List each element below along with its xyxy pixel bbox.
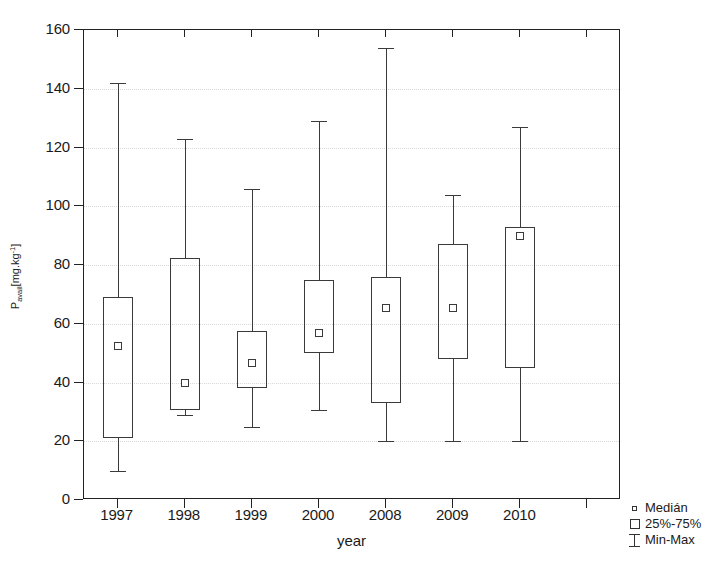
median-symbol-icon xyxy=(627,500,642,516)
legend-item-median: Medián xyxy=(627,500,722,516)
minmax-symbol-icon xyxy=(627,532,642,548)
y-axis-tick-label: 80 xyxy=(4,255,70,272)
median-marker xyxy=(516,232,524,240)
y-axis-tick-label: 160 xyxy=(4,20,70,37)
whisker-upper xyxy=(386,48,387,277)
x-axis-tick-top xyxy=(184,29,185,37)
y-axis-tick-label: 60 xyxy=(4,314,70,331)
y-axis-tick-label: 140 xyxy=(4,79,70,96)
x-axis-title: year xyxy=(83,532,620,549)
y-axis-tick xyxy=(74,264,83,265)
cap-min xyxy=(177,415,193,416)
quartile-box xyxy=(371,277,401,403)
x-axis-tick xyxy=(586,499,587,508)
y-axis-tick-label: 100 xyxy=(4,196,70,213)
whisker-lower xyxy=(520,368,521,441)
x-axis-tick-label: 2008 xyxy=(349,506,421,523)
quartile-box xyxy=(438,244,468,359)
cap-max xyxy=(378,48,394,49)
median-marker xyxy=(449,304,457,312)
y-axis-tick xyxy=(74,382,83,383)
x-axis-tick-top xyxy=(385,29,386,37)
box-plot-chart: Pavail[mg.kg-1] 020406080100120140160 19… xyxy=(0,0,722,562)
y-axis-tick xyxy=(74,29,83,30)
whisker-upper xyxy=(453,195,454,245)
whisker-lower xyxy=(386,403,387,441)
legend-label-minmax: Min-Max xyxy=(642,532,695,548)
gridline xyxy=(84,148,619,149)
x-axis-tick-top xyxy=(251,29,252,37)
box-symbol-icon xyxy=(627,516,642,532)
whisker-lower xyxy=(453,359,454,441)
x-axis-tick-label: 1999 xyxy=(215,506,287,523)
cap-min xyxy=(244,427,260,428)
cap-max xyxy=(244,189,260,190)
x-axis-tick-top xyxy=(117,29,118,37)
median-marker xyxy=(181,379,189,387)
whisker-upper xyxy=(520,127,521,227)
x-axis-tick-label: 2009 xyxy=(416,506,488,523)
cap-min xyxy=(512,441,528,442)
x-axis-tick-label: 2010 xyxy=(483,506,555,523)
y-axis-tick xyxy=(74,440,83,441)
legend-label-quartiles: 25%-75% xyxy=(642,516,701,532)
gridline xyxy=(84,324,619,325)
whisker-upper xyxy=(252,189,253,331)
quartile-box xyxy=(505,227,535,368)
cap-max xyxy=(177,139,193,140)
legend-item-minmax: Min-Max xyxy=(627,532,722,548)
cap-min xyxy=(445,441,461,442)
y-axis-tick xyxy=(74,499,83,500)
y-axis-tick xyxy=(74,323,83,324)
whisker-upper xyxy=(319,121,320,280)
y-axis-tick-label: 20 xyxy=(4,431,70,448)
y-axis-tick-label: 120 xyxy=(4,138,70,155)
median-marker xyxy=(114,342,122,350)
cap-max xyxy=(445,195,461,196)
whisker-lower xyxy=(118,438,119,470)
y-axis-tick xyxy=(74,88,83,89)
x-axis-tick-top xyxy=(452,29,453,37)
whisker-lower xyxy=(252,388,253,426)
x-axis-tick-top xyxy=(586,29,587,37)
quartile-box xyxy=(170,258,200,411)
gridline xyxy=(84,89,619,90)
whisker-upper xyxy=(118,83,119,297)
legend-item-quartiles: 25%-75% xyxy=(627,516,722,532)
gridline xyxy=(84,206,619,207)
median-marker xyxy=(248,359,256,367)
legend: Medián 25%-75% Min-Max xyxy=(627,500,722,548)
cap-min xyxy=(311,410,327,411)
whisker-lower xyxy=(319,353,320,410)
quartile-box xyxy=(103,297,133,438)
cap-max xyxy=(311,121,327,122)
plot-area xyxy=(83,29,620,499)
y-axis-tick-label: 40 xyxy=(4,373,70,390)
x-axis-tick-top xyxy=(318,29,319,37)
median-marker xyxy=(315,329,323,337)
whisker-upper xyxy=(185,139,186,258)
cap-max xyxy=(110,83,126,84)
x-axis-tick-top xyxy=(519,29,520,37)
y-axis-tick xyxy=(74,147,83,148)
y-axis-tick xyxy=(74,205,83,206)
gridline xyxy=(84,265,619,266)
quartile-box xyxy=(304,280,334,353)
cap-min xyxy=(110,471,126,472)
median-marker xyxy=(382,304,390,312)
y-axis: 020406080100120140160 xyxy=(0,0,70,562)
x-axis-tick-label: 1997 xyxy=(81,506,153,523)
cap-min xyxy=(378,441,394,442)
x-axis-tick-label: 2000 xyxy=(282,506,354,523)
y-axis-tick-label: 0 xyxy=(4,490,70,507)
x-axis-tick-label: 1998 xyxy=(148,506,220,523)
gridline xyxy=(84,441,619,442)
gridline xyxy=(84,383,619,384)
legend-label-median: Medián xyxy=(642,500,688,516)
cap-max xyxy=(512,127,528,128)
